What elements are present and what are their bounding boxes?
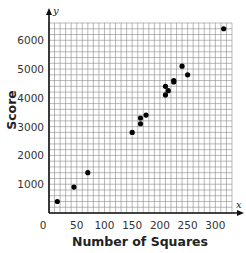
data-point xyxy=(138,115,143,120)
data-point xyxy=(138,121,143,126)
data-point xyxy=(179,64,184,69)
data-point xyxy=(71,184,76,189)
x-tick-label: 100 xyxy=(94,219,114,231)
x-tick-labels: 050100150200250300 xyxy=(40,219,226,231)
x-tick-label: 250 xyxy=(178,219,198,231)
data-point xyxy=(185,72,190,77)
y-axis-arrow-icon xyxy=(46,8,52,15)
y-tick-label: 6000 xyxy=(17,34,44,46)
x-tick-label: 300 xyxy=(205,219,225,231)
y-axis-variable: y xyxy=(52,5,59,16)
y-tick-label: 2000 xyxy=(17,149,44,161)
data-point xyxy=(171,78,176,83)
data-point xyxy=(85,170,90,175)
x-axis-title: Number of Squares xyxy=(72,234,208,249)
data-point xyxy=(143,113,148,118)
data-point xyxy=(163,84,168,89)
x-tick-label: 150 xyxy=(122,219,142,231)
data-point xyxy=(166,88,171,93)
x-tick-label: 200 xyxy=(150,219,170,231)
data-point xyxy=(55,199,60,204)
data-point xyxy=(163,92,168,97)
data-point xyxy=(130,130,135,135)
scatter-chart: x y 050100150200250300 10002000300040005… xyxy=(0,0,246,253)
x-tick-label: 50 xyxy=(70,219,83,231)
data-point xyxy=(221,26,226,31)
y-tick-label: 4000 xyxy=(17,92,44,104)
x-axis-variable: x xyxy=(236,199,242,210)
y-tick-label: 1000 xyxy=(17,178,44,190)
y-axis-title: Score xyxy=(4,90,19,130)
y-tick-label: 5000 xyxy=(17,63,44,75)
x-tick-label: 0 xyxy=(40,219,47,231)
chart-canvas: x y 050100150200250300 10002000300040005… xyxy=(0,0,246,253)
y-tick-label: 3000 xyxy=(17,121,44,133)
y-tick-labels: 100020003000400050006000 xyxy=(17,34,44,190)
x-axis-arrow-icon xyxy=(237,210,244,216)
